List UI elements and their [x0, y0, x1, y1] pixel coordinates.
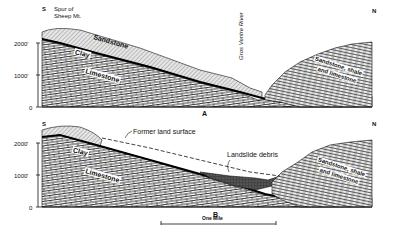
landslide-debris-label: Landslide debris [227, 151, 278, 158]
axis-b-tick-0: 0 [29, 205, 32, 211]
axis-b-tick-2000: 2000' [14, 141, 29, 147]
axis-a-tick-2000: 2000' [14, 41, 29, 47]
axis-b-tick-1000: 1000' [14, 173, 29, 179]
axis-a-tick-1000: 1000' [14, 73, 29, 79]
river-label: Gros Ventre River [238, 12, 244, 60]
former-land-surface-label: Former land surface [133, 128, 196, 135]
north-label-a: N [372, 8, 376, 14]
scale-bar [161, 221, 276, 225]
scale-label: One Mile [202, 216, 223, 221]
section-a-label: A [202, 110, 207, 117]
spur-label-line1: Spur of [54, 6, 73, 12]
north-label-b: N [372, 121, 376, 127]
south-label-b: S [42, 121, 46, 127]
cross-section-drawing [0, 0, 408, 240]
spur-label-line2: Sheep Mt. [54, 13, 81, 19]
south-label-a: S [42, 6, 46, 12]
axis-a-tick-0: 0 [29, 105, 32, 111]
